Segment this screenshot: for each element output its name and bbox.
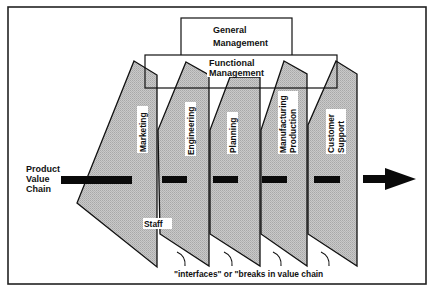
function-label-marketing: Marketing [137, 106, 148, 153]
function-label-planning: Planning [227, 112, 238, 154]
svg-text:Marketing: Marketing [138, 112, 148, 152]
functional-management-label-line1: Functional [209, 58, 255, 68]
interfaces-caption: "interfaces" or "breaks in value chain [174, 269, 323, 279]
general-management-box: General Management [181, 18, 292, 56]
function-label-engineering: Engineering [185, 102, 196, 156]
value-chain-diagram: General Management Functional Management… [0, 0, 433, 291]
value-chain-bar-customer-support [314, 176, 340, 183]
svg-text:Support: Support [336, 121, 346, 153]
svg-text:Production: Production [288, 109, 298, 153]
svg-text:Product: Product [26, 164, 60, 174]
functional-management-label-line2: Management [209, 68, 264, 78]
svg-text:Planning: Planning [228, 118, 238, 153]
svg-text:Chain: Chain [26, 184, 51, 194]
value-chain-bar-planning [213, 176, 238, 183]
function-label-manufacturing-production: Manufacturing Production [278, 91, 298, 154]
svg-text:Engineering: Engineering [186, 107, 196, 155]
value-chain-bar-engineering [162, 176, 187, 183]
value-chain-bar-manufacturing [262, 176, 287, 183]
general-management-label-line2: Management [213, 38, 268, 48]
staff-label: Staff [143, 218, 172, 229]
function-label-customer-support: Customer Support [326, 109, 346, 154]
svg-text:Staff: Staff [144, 219, 163, 229]
value-chain-bar-marketing [61, 176, 132, 184]
svg-text:Manufacturing: Manufacturing [278, 95, 288, 153]
general-management-label-line1: General [213, 25, 247, 35]
svg-text:Customer: Customer [326, 113, 336, 153]
svg-text:Value: Value [26, 174, 50, 184]
